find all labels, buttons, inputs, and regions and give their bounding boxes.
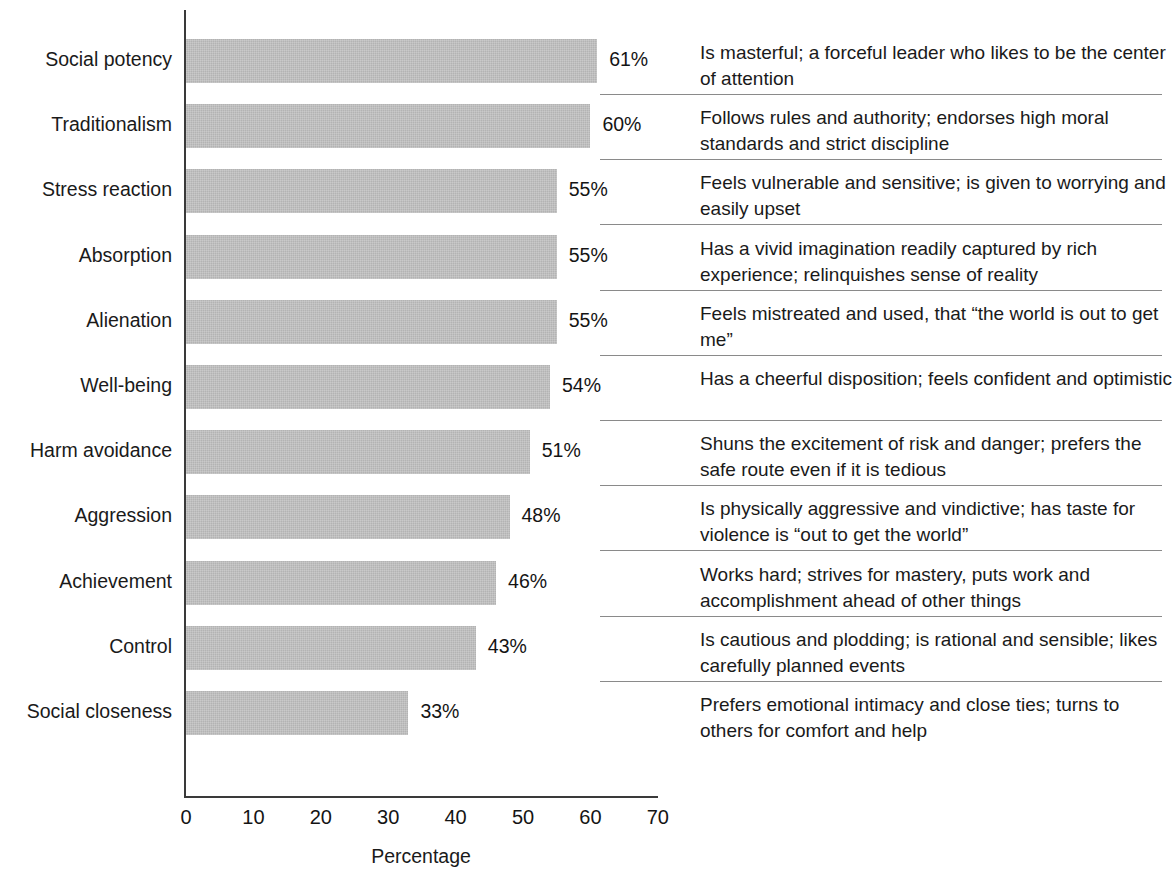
row-separator: [600, 681, 1162, 682]
category-label: Well-being: [0, 374, 172, 397]
bar: [186, 300, 557, 344]
bar: [186, 495, 510, 539]
category-label: Social closeness: [0, 700, 172, 723]
bar: [186, 235, 557, 279]
bar-value-label: 55%: [569, 309, 608, 332]
bar-value-label: 55%: [569, 244, 608, 267]
row-separator: [600, 290, 1162, 291]
row-separator: [600, 550, 1162, 551]
row-separator: [600, 94, 1162, 95]
bar: [186, 365, 550, 409]
x-axis-title: Percentage: [184, 845, 658, 868]
x-tick-label: 20: [310, 806, 332, 829]
trait-description: Prefers emotional intimacy and close tie…: [700, 692, 1174, 744]
trait-description: Has a cheerful disposition; feels confid…: [700, 366, 1174, 392]
x-tick-label: 0: [180, 806, 191, 829]
row-separator: [600, 224, 1162, 225]
bar-value-label: 46%: [508, 570, 547, 593]
trait-description: Follows rules and authority; endorses hi…: [700, 105, 1174, 157]
bar-value-label: 48%: [522, 504, 561, 527]
x-tick-label: 10: [242, 806, 264, 829]
category-label: Social potency: [0, 48, 172, 71]
bar-value-label: 51%: [542, 439, 581, 462]
bar: [186, 430, 530, 474]
x-tick-label: 40: [444, 806, 466, 829]
row-separator: [600, 355, 1162, 356]
trait-description: Has a vivid imagination readily captured…: [700, 236, 1174, 288]
category-label: Absorption: [0, 244, 172, 267]
row-separator: [600, 485, 1162, 486]
category-label: Harm avoidance: [0, 439, 172, 462]
trait-description: Is physically aggressive and vindictive;…: [700, 496, 1174, 548]
category-label: Alienation: [0, 309, 172, 332]
bar: [186, 169, 557, 213]
bar: [186, 626, 476, 670]
bar-value-label: 54%: [562, 374, 601, 397]
bar: [186, 39, 597, 83]
category-label: Traditionalism: [0, 113, 172, 136]
bar-value-label: 55%: [569, 178, 608, 201]
x-tick-label: 70: [647, 806, 669, 829]
category-label: Stress reaction: [0, 178, 172, 201]
category-label: Control: [0, 635, 172, 658]
row-separator: [600, 616, 1162, 617]
bar: [186, 561, 496, 605]
bar: [186, 691, 408, 735]
category-label: Aggression: [0, 504, 172, 527]
bar-value-label: 61%: [609, 48, 648, 71]
trait-description: Is cautious and plodding; is rational an…: [700, 627, 1174, 679]
x-tick-label: 60: [579, 806, 601, 829]
trait-description: Works hard; strives for mastery, puts wo…: [700, 562, 1174, 614]
x-tick-label: 50: [512, 806, 534, 829]
row-separator: [600, 420, 1162, 421]
bar-value-label: 33%: [420, 700, 459, 723]
row-separator: [600, 159, 1162, 160]
x-tick-label: 30: [377, 806, 399, 829]
category-label: Achievement: [0, 570, 172, 593]
x-axis-line: [184, 796, 658, 798]
trait-description: Feels vulnerable and sensitive; is given…: [700, 170, 1174, 222]
trait-description: Shuns the excitement of risk and danger;…: [700, 431, 1174, 483]
bar-value-label: 60%: [602, 113, 641, 136]
bar: [186, 104, 590, 148]
trait-description: Feels mistreated and used, that “the wor…: [700, 301, 1174, 353]
trait-description: Is masterful; a forceful leader who like…: [700, 40, 1174, 92]
bar-value-label: 43%: [488, 635, 527, 658]
